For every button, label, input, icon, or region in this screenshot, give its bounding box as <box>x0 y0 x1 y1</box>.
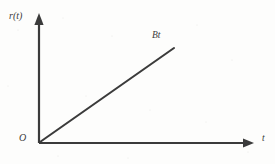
x-axis-label: t <box>262 134 265 144</box>
x-axis-arrowhead-icon <box>243 139 254 148</box>
origin-label: O <box>19 133 26 143</box>
ramp-line <box>40 48 174 142</box>
y-axis-arrowhead-icon <box>34 13 43 25</box>
y-axis-label: r(t) <box>9 11 22 21</box>
ramp-function-figure: r(t) t O Bt <box>0 0 275 164</box>
figure-canvas <box>0 0 275 164</box>
ramp-line-label: Bt <box>152 31 160 41</box>
